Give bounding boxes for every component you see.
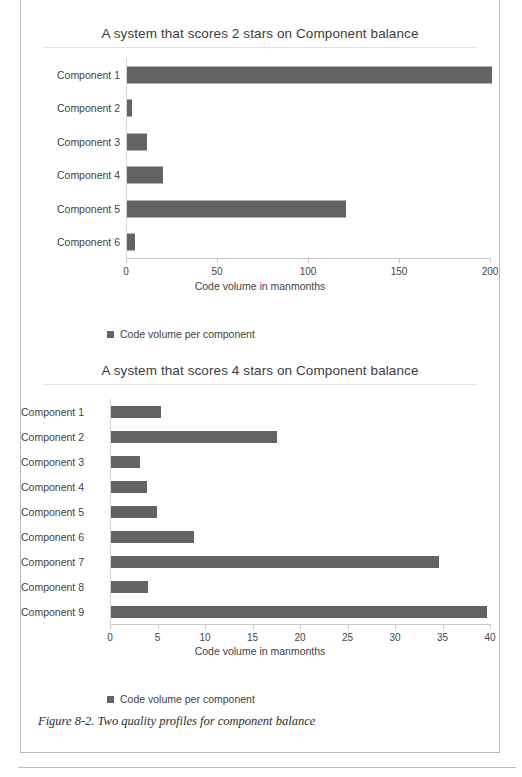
legend-label: Code volume per component — [120, 328, 255, 340]
bar-row: Component 2 — [21, 426, 499, 447]
x-tick — [490, 624, 491, 629]
bar-track — [110, 401, 499, 422]
legend-swatch-icon — [107, 696, 114, 703]
x-tick — [126, 258, 127, 263]
bar-row: Component 5 — [21, 192, 499, 226]
bar — [110, 431, 277, 443]
bar-rows: Component 1Component 2Component 3Compone… — [21, 58, 499, 259]
bar-track — [126, 125, 499, 159]
bar-row: Component 6 — [21, 527, 499, 548]
x-tick-label: 100 — [300, 266, 317, 277]
category-label: Component 2 — [21, 431, 110, 443]
x-tick — [158, 624, 159, 629]
legend-swatch-icon — [107, 331, 114, 338]
category-label: Component 1 — [21, 69, 126, 81]
bar — [110, 456, 140, 468]
x-tick — [300, 624, 301, 629]
category-axis-line — [126, 58, 127, 259]
chart-title: A system that scores 4 stars on Componen… — [21, 363, 499, 378]
bar — [126, 133, 147, 150]
x-tick — [253, 624, 254, 629]
bar — [110, 481, 147, 493]
bar-track — [110, 501, 499, 522]
bar-rows: Component 1Component 2Component 3Compone… — [21, 399, 499, 625]
title-divider — [43, 384, 477, 385]
category-label: Component 9 — [21, 606, 110, 618]
x-tick — [217, 258, 218, 263]
x-tick-label: 30 — [389, 632, 400, 643]
bar — [126, 234, 135, 251]
x-tick-label: 0 — [123, 266, 129, 277]
bar-track — [126, 226, 499, 260]
bar-track — [110, 602, 499, 623]
bar-row: Component 9 — [21, 602, 499, 623]
category-label: Component 6 — [21, 236, 126, 248]
x-tick-label: 200 — [482, 266, 499, 277]
x-tick — [443, 624, 444, 629]
x-tick-label: 5 — [155, 632, 161, 643]
plot-area: Component 1Component 2Component 3Compone… — [21, 56, 499, 281]
bar-row: Component 8 — [21, 577, 499, 598]
chart-4-stars: A system that scores 4 stars on Componen… — [21, 363, 499, 708]
category-label: Component 6 — [21, 531, 110, 543]
bar — [110, 556, 439, 568]
category-axis-line — [110, 399, 111, 625]
x-tick — [399, 258, 400, 263]
bar-row: Component 5 — [21, 501, 499, 522]
category-label: Component 3 — [21, 456, 110, 468]
x-tick — [490, 258, 491, 263]
x-axis-title: Code volume in manmonths — [21, 280, 499, 292]
bar-track — [126, 192, 499, 226]
bar-track — [110, 577, 499, 598]
category-label: Component 8 — [21, 581, 110, 593]
bar-row: Component 3 — [21, 451, 499, 472]
x-tick-label: 25 — [342, 632, 353, 643]
bar-row: Component 7 — [21, 552, 499, 573]
category-label: Component 4 — [21, 481, 110, 493]
bar — [110, 406, 161, 418]
category-label: Component 1 — [21, 406, 110, 418]
chart-title: A system that scores 2 stars on Componen… — [21, 26, 499, 41]
bar-row: Component 4 — [21, 476, 499, 497]
x-tick-label: 150 — [391, 266, 408, 277]
bar-row: Component 3 — [21, 125, 499, 159]
bar-row: Component 1 — [21, 401, 499, 422]
category-label: Component 5 — [21, 506, 110, 518]
chart-2-stars: A system that scores 2 stars on Componen… — [21, 26, 499, 342]
bar — [110, 606, 487, 618]
x-tick — [308, 258, 309, 263]
bar-row: Component 6 — [21, 226, 499, 260]
x-tick — [395, 624, 396, 629]
x-tick-label: 15 — [247, 632, 258, 643]
x-axis-title: Code volume in manmonths — [21, 645, 499, 657]
title-divider — [43, 47, 477, 48]
plot-area: Component 1Component 2Component 3Compone… — [21, 393, 499, 655]
bar — [110, 506, 157, 518]
x-tick — [348, 624, 349, 629]
bar-track — [126, 159, 499, 193]
category-label: Component 7 — [21, 556, 110, 568]
legend: Code volume per component — [107, 328, 255, 340]
bar — [126, 167, 163, 184]
bar-track — [110, 552, 499, 573]
bar-track — [110, 476, 499, 497]
bar-track — [126, 92, 499, 126]
category-label: Component 5 — [21, 203, 126, 215]
bar — [110, 581, 148, 593]
bar-row: Component 4 — [21, 159, 499, 193]
bar-track — [110, 426, 499, 447]
x-tick-label: 10 — [199, 632, 210, 643]
bar-row: Component 2 — [21, 92, 499, 126]
category-label: Component 2 — [21, 102, 126, 114]
bar-track — [126, 58, 499, 92]
category-label: Component 3 — [21, 136, 126, 148]
legend: Code volume per component — [107, 693, 255, 705]
x-tick-label: 20 — [294, 632, 305, 643]
legend-label: Code volume per component — [120, 693, 255, 705]
x-tick-label: 0 — [107, 632, 113, 643]
x-tick — [205, 624, 206, 629]
category-label: Component 4 — [21, 169, 126, 181]
x-tick-label: 35 — [437, 632, 448, 643]
bar-track — [110, 451, 499, 472]
bar — [126, 66, 492, 83]
